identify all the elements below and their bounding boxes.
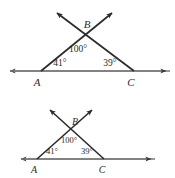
angle-label-b: 100° xyxy=(61,135,77,145)
vertex-label-c: C xyxy=(99,164,106,175)
vertex-label-b: B xyxy=(84,18,91,30)
geometry-figures-container: A B C 41° 100° 39° A B C 41° 100° xyxy=(0,0,175,178)
ray-a-through-b xyxy=(41,13,112,71)
angle-label-c: 39° xyxy=(103,58,117,68)
figure-triangle-abc-small: A B C 41° 100° 39° xyxy=(0,89,175,178)
vertex-label-b: B xyxy=(72,116,78,127)
vertex-label-c: C xyxy=(127,76,135,88)
angle-label-c: 39° xyxy=(81,146,93,156)
vertex-label-a: A xyxy=(33,76,41,88)
angle-label-a: 41° xyxy=(53,58,67,68)
ray-c-through-b xyxy=(57,13,134,71)
angle-label-b: 100° xyxy=(69,44,87,54)
figure-triangle-abc-large: A B C 41° 100° 39° xyxy=(0,0,175,89)
angle-label-a: 41° xyxy=(46,146,58,156)
vertex-label-a: A xyxy=(30,164,38,175)
